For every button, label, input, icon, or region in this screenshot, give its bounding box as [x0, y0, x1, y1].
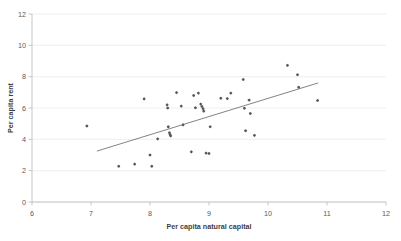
- marker-glyph: [226, 97, 229, 100]
- marker-glyph: [202, 110, 205, 113]
- data-point: [226, 97, 229, 100]
- x-tick-label: 9: [207, 209, 211, 218]
- data-point: [117, 165, 120, 168]
- data-point: [207, 152, 210, 155]
- y-tick-label: 0: [22, 198, 26, 207]
- marker-glyph: [190, 150, 193, 153]
- data-point: [167, 125, 170, 128]
- data-point: [248, 99, 251, 102]
- y-tick-label: 10: [18, 41, 26, 50]
- x-tick-label: 10: [264, 209, 272, 218]
- marker-glyph: [85, 124, 88, 127]
- x-tick-label: 7: [89, 209, 93, 218]
- marker-glyph: [166, 106, 169, 109]
- data-point: [249, 112, 252, 115]
- data-point: [197, 92, 200, 95]
- marker-glyph: [175, 91, 178, 94]
- data-point: [194, 106, 197, 109]
- y-tick-label: 8: [22, 72, 26, 81]
- data-point: [190, 150, 193, 153]
- marker-glyph: [244, 129, 247, 132]
- data-points-group: [85, 64, 319, 168]
- x-tick-label: 11: [323, 209, 330, 218]
- data-point: [175, 91, 178, 94]
- marker-glyph: [150, 165, 153, 168]
- marker-glyph: [219, 97, 222, 100]
- x-tick-label: 8: [148, 209, 152, 218]
- data-point: [253, 134, 256, 137]
- data-point: [166, 106, 169, 109]
- marker-glyph: [197, 92, 200, 95]
- trendline-group: [97, 83, 318, 151]
- marker-glyph: [192, 94, 195, 97]
- marker-glyph: [242, 78, 245, 81]
- data-point: [316, 99, 319, 102]
- data-point: [296, 73, 299, 76]
- trend-line: [97, 83, 318, 151]
- marker-glyph: [296, 73, 299, 76]
- data-point: [148, 153, 151, 156]
- data-point: [209, 125, 212, 128]
- y-tick-label: 6: [22, 104, 26, 113]
- y-tick-label: 12: [18, 10, 26, 19]
- data-point: [192, 94, 195, 97]
- marker-glyph: [316, 99, 319, 102]
- marker-glyph: [167, 125, 170, 128]
- x-tick-label: 6: [30, 209, 34, 218]
- data-point: [156, 137, 159, 140]
- y-tick-label: 4: [22, 135, 26, 144]
- marker-glyph: [209, 125, 212, 128]
- marker-glyph: [249, 112, 252, 115]
- marker-glyph: [248, 99, 251, 102]
- axes-group: [29, 14, 387, 206]
- marker-glyph: [180, 105, 183, 108]
- marker-glyph: [166, 103, 169, 106]
- data-point: [143, 97, 146, 100]
- marker-glyph: [143, 97, 146, 100]
- data-point: [85, 124, 88, 127]
- marker-glyph: [194, 106, 197, 109]
- data-point: [243, 107, 246, 110]
- scatter-chart: 6789101112 024681012 Per capita natural …: [0, 0, 401, 241]
- marker-glyph: [156, 137, 159, 140]
- marker-glyph: [205, 152, 208, 155]
- gridlines-group: [32, 14, 386, 202]
- data-point: [205, 152, 208, 155]
- marker-glyph: [253, 134, 256, 137]
- marker-glyph: [207, 152, 210, 155]
- y-tick-labels-group: 024681012: [18, 10, 26, 207]
- marker-glyph: [117, 165, 120, 168]
- data-point: [229, 92, 232, 95]
- data-point: [202, 110, 205, 113]
- x-tick-labels-group: 6789101112: [30, 209, 390, 218]
- marker-glyph: [286, 64, 289, 67]
- data-point: [150, 165, 153, 168]
- data-point: [242, 78, 245, 81]
- data-point: [244, 129, 247, 132]
- marker-glyph: [229, 92, 232, 95]
- data-point: [133, 163, 136, 166]
- y-tick-label: 2: [22, 166, 26, 175]
- marker-glyph: [133, 163, 136, 166]
- chart-canvas: 6789101112 024681012 Per capita natural …: [0, 0, 401, 241]
- data-point: [166, 103, 169, 106]
- data-point: [286, 64, 289, 67]
- x-tick-label: 12: [382, 209, 390, 218]
- data-point: [219, 97, 222, 100]
- marker-glyph: [243, 107, 246, 110]
- marker-glyph: [148, 153, 151, 156]
- y-axis-title: Per capita rent: [6, 82, 15, 133]
- x-axis-title: Per capita natural capital: [166, 222, 251, 231]
- data-point: [180, 105, 183, 108]
